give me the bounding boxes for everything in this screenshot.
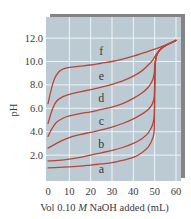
curve-label-f: f	[99, 44, 103, 58]
y-tick-label: 10.0	[25, 56, 43, 67]
x-tick-label: 20	[85, 186, 96, 197]
x-axis-ticks: 0102030405060	[45, 186, 181, 197]
x-tick-label: 30	[107, 186, 118, 197]
y-tick-label: 12.0	[25, 33, 43, 44]
y-tick-label: 6.0	[30, 103, 43, 114]
chart-canvas: abcdef 0102030405060 2.04.06.08.010.012.…	[0, 0, 191, 219]
x-tick-label: 60	[171, 186, 182, 197]
x-tick-label: 50	[149, 186, 160, 197]
x-tick-label: 10	[64, 186, 75, 197]
y-axis-title: pH	[8, 103, 19, 116]
curve-label-b: b	[98, 137, 104, 151]
x-axis-title-suffix: NaOH added (mL)	[87, 202, 169, 213]
y-tick-label: 8.0	[30, 79, 43, 90]
y-tick-label: 4.0	[30, 126, 43, 137]
x-axis-title: Vol 0.10 M NaOH added (mL)	[0, 202, 191, 213]
titration-chart: abcdef 0102030405060 2.04.06.08.010.012.…	[0, 0, 191, 219]
curve-label-c: c	[99, 114, 104, 128]
plot-area	[46, 17, 181, 181]
y-axis-ticks: 2.04.06.08.010.012.0	[25, 33, 43, 161]
curve-label-d: d	[98, 91, 104, 105]
x-tick-label: 0	[45, 186, 50, 197]
curve-label-a: a	[99, 162, 105, 176]
x-axis-title-molar: M	[78, 202, 87, 213]
x-tick-label: 40	[128, 186, 139, 197]
y-tick-label: 2.0	[30, 150, 43, 161]
x-axis-title-prefix: Vol 0.10	[40, 202, 78, 213]
curve-label-e: e	[99, 69, 104, 83]
